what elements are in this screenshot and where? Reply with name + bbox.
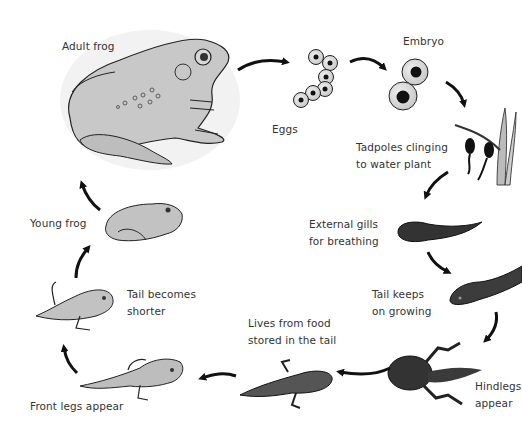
tadpole-hindlegs-illustration	[388, 343, 482, 404]
label-tail-becomes-shorter-line2: shorter	[127, 303, 165, 320]
label-tadpoles-clinging-line1: Tadpoles clinging	[356, 139, 448, 156]
label-tadpoles-clinging-line2: to water plant	[356, 156, 431, 173]
label-embryo: Embryo	[403, 33, 444, 50]
label-eggs: Eggs	[272, 121, 298, 138]
label-hindlegs-line1: Hindlegs	[475, 378, 521, 395]
label-adult-frog: Adult frog	[62, 38, 115, 55]
label-hindlegs-line2: appear	[475, 395, 513, 412]
tadpole-stored-food-illustration	[240, 360, 332, 408]
eggs-illustration	[294, 50, 338, 108]
froglet-front-legs-illustration	[80, 359, 183, 400]
label-front-legs-appear: Front legs appear	[30, 398, 123, 415]
label-young-frog: Young frog	[30, 215, 87, 232]
label-external-gills-line2: for breathing	[309, 233, 379, 250]
label-external-gills-line1: External gills	[309, 216, 378, 233]
frog-life-cycle-diagram: Adult frog Eggs Embryo Tadpoles clinging…	[0, 0, 522, 435]
tadpole-tail-growing-illustration	[450, 266, 522, 305]
young-frog-illustration	[106, 203, 183, 240]
label-lives-from-food-line1: Lives from food	[248, 315, 331, 332]
tadpoles-on-plant-illustration	[455, 108, 516, 185]
froglet-short-tail-illustration	[36, 282, 113, 330]
tadpole-gills-illustration	[398, 222, 482, 242]
label-tail-keeps-growing-line1: Tail keeps	[372, 286, 424, 303]
embryo-illustration	[389, 59, 428, 110]
label-tail-becomes-shorter-line1: Tail becomes	[127, 286, 196, 303]
label-tail-keeps-growing-line2: on growing	[372, 303, 431, 320]
label-lives-from-food-line2: stored in the tail	[248, 332, 336, 349]
